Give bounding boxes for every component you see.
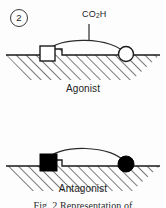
antagonist-circle-marker: [118, 156, 134, 172]
carboxyl-group-tail: H: [100, 9, 107, 19]
agonist-circle-marker: [119, 47, 134, 62]
agonist-panel-label: Agonist: [0, 83, 166, 94]
agonist-panel: [0, 24, 166, 90]
figure-drawing: [0, 0, 166, 208]
antagonist-receptor-surface: [0, 156, 166, 201]
carboxyl-group-main: CO: [82, 9, 96, 19]
figure-caption: Fig. 2 Representation of: [0, 200, 166, 208]
figure-container: 2 CO2H Agonist Antagonist Fig. 2 Represe…: [0, 0, 166, 208]
panel-number-badge: 2: [10, 9, 28, 27]
antagonist-square-marker: [40, 154, 57, 171]
antagonist-panel-label: Antagonist: [0, 183, 166, 194]
carboxyl-group-label: CO2H: [82, 9, 106, 19]
agonist-square-marker: [40, 46, 55, 61]
